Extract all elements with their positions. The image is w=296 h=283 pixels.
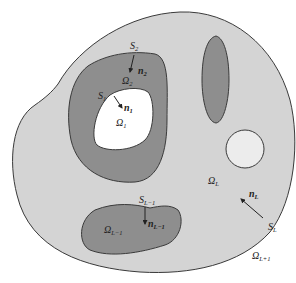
small-circular-inclusion [226, 130, 264, 168]
domain-diagram: S2 n2 Ω2 S1 n1 Ω1 ΩL nL SL−1 nL−1 ΩL−1 S… [0, 0, 296, 283]
label-omega-L-plus-1: ΩL+1 [252, 250, 271, 262]
elongated-inclusion [202, 36, 229, 123]
